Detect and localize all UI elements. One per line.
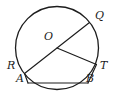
point-label-Q: Q [95,10,104,21]
geometry-figure: O Q R T A B [0,0,113,97]
point-label-O: O [44,31,53,42]
point-label-A: A [16,73,24,84]
point-label-B: B [86,73,94,84]
point-label-T: T [100,60,107,71]
point-label-R: R [7,60,15,71]
radius-OT [57,48,97,65]
